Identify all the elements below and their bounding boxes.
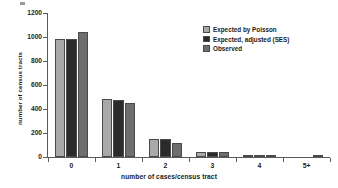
bar-group (48, 13, 95, 157)
bar (160, 139, 171, 157)
legend-label: Observed (213, 45, 242, 52)
x-tick-label: 5+ (287, 162, 327, 169)
y-tick-label: 1200 (16, 10, 42, 17)
bar (113, 100, 124, 157)
y-tick-mark (43, 37, 47, 38)
y-tick-label: 0 (16, 154, 42, 161)
x-axis-title: number of cases/census tract (0, 173, 338, 180)
x-tick-mark (236, 158, 237, 162)
bar (243, 155, 254, 157)
y-axis-tick-labels: 020040060080010001200 (16, 0, 42, 188)
chart-legend: Expected by PoissonExpected, adjusted (S… (203, 25, 333, 54)
x-tick-mark (142, 158, 143, 162)
legend-item: Expected by Poisson (203, 25, 333, 34)
x-tick-label: 4 (240, 162, 280, 169)
bar (66, 39, 77, 157)
bar (266, 155, 277, 157)
y-tick-mark (43, 13, 47, 14)
x-tick-label: 3 (193, 162, 233, 169)
bar (196, 152, 207, 157)
bar (125, 103, 136, 157)
y-tick-mark (43, 157, 47, 158)
bar-group (95, 13, 142, 157)
y-tick-label: 1000 (16, 34, 42, 41)
y-tick-label: 400 (16, 106, 42, 113)
y-tick-mark (43, 61, 47, 62)
bar-chart-figure: number of census tracts 0200400600800100… (0, 0, 338, 188)
bar-group (142, 13, 189, 157)
x-tick-mark (283, 158, 284, 162)
y-tick-mark (43, 85, 47, 86)
y-tick-label: 200 (16, 130, 42, 137)
legend-item: Expected, adjusted (SES) (203, 35, 333, 44)
x-tick-mark (189, 158, 190, 162)
x-tick-mark (95, 158, 96, 162)
y-tick-label: 800 (16, 58, 42, 65)
bar (313, 155, 324, 157)
y-tick-mark (43, 109, 47, 110)
bar (254, 155, 265, 157)
x-tick-mark (48, 158, 49, 162)
legend-item: Observed (203, 44, 333, 53)
bar (149, 139, 160, 157)
bar (219, 152, 230, 157)
bar (172, 143, 183, 157)
y-tick-label: 600 (16, 82, 42, 89)
bar (55, 39, 66, 157)
legend-swatch-icon (203, 36, 210, 43)
y-tick-mark (43, 133, 47, 134)
x-tick-label: 0 (52, 162, 92, 169)
legend-label: Expected by Poisson (213, 26, 277, 33)
x-tick-label: 1 (99, 162, 139, 169)
legend-label: Expected, adjusted (SES) (213, 36, 289, 43)
bar (78, 32, 89, 157)
bar (102, 99, 113, 157)
bar (207, 152, 218, 157)
legend-swatch-icon (203, 45, 210, 52)
legend-swatch-icon (203, 26, 210, 33)
x-tick-mark (330, 158, 331, 162)
x-tick-label: 2 (146, 162, 186, 169)
